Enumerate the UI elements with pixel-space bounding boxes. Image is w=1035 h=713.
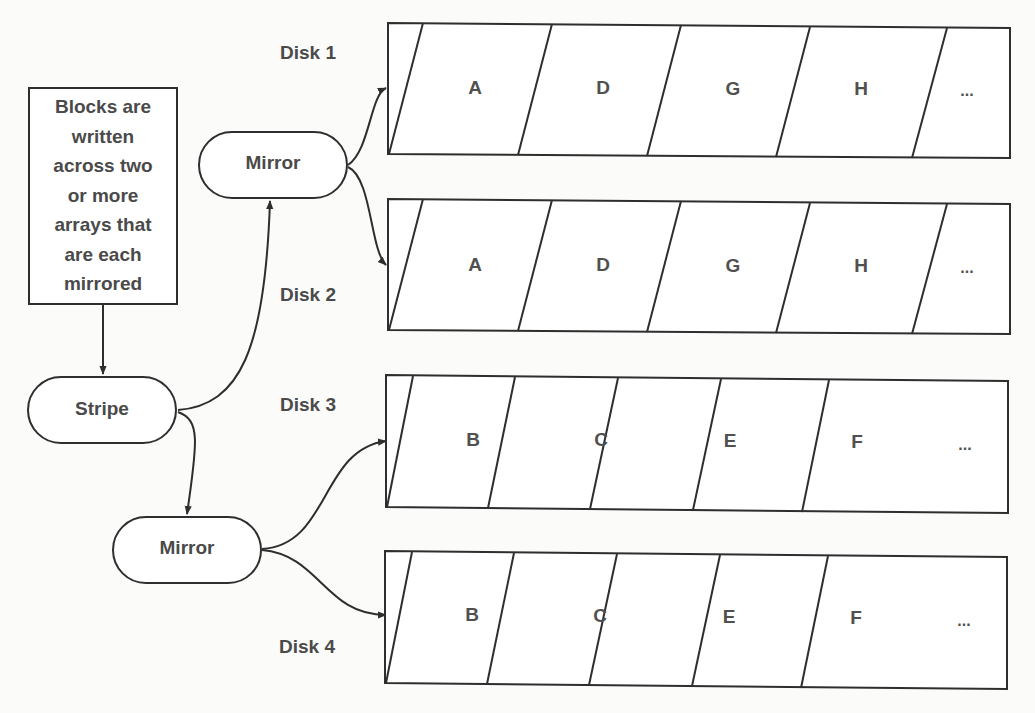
note-text: Blocks are written across two or more ar… <box>29 92 177 299</box>
note-line: Blocks are <box>29 92 177 122</box>
note-line: or more <box>29 181 177 211</box>
disk-1-block: G <box>703 78 763 100</box>
arrow-stripe-to-mirror-top <box>178 201 270 410</box>
disk-2-block: D <box>573 254 633 276</box>
note-line: written <box>29 122 177 152</box>
disk-1-block: A <box>445 77 505 99</box>
disk-3-block: F <box>827 431 887 453</box>
mirror-top-node-label: Mirror <box>199 152 347 174</box>
arrow-mirror-bottom-to-disk4 <box>262 550 386 615</box>
disk-2-block: G <box>703 255 763 277</box>
note-line: arrays that <box>29 210 177 240</box>
disk-2-label: Disk 2 <box>280 284 336 306</box>
note-line: are each <box>29 240 177 270</box>
disk-1-block: D <box>573 77 633 99</box>
disk-4-label: Disk 4 <box>279 636 335 658</box>
disk-4-block: C <box>570 605 630 627</box>
note-line: across two <box>29 151 177 181</box>
arrow-mirror-top-to-disk2 <box>348 167 386 265</box>
arrow-mirror-bottom-to-disk3 <box>262 441 386 549</box>
disk-3-block: E <box>700 430 760 452</box>
raid-10-diagram: Blocks are written across two or more ar… <box>0 0 1035 713</box>
disk-3-block: C <box>571 429 631 451</box>
stripe-node-label: Stripe <box>28 398 176 420</box>
disk-3-block-ellipsis: ... <box>935 436 995 454</box>
disk-4-block: F <box>826 607 886 629</box>
disk-1-block: H <box>831 78 891 100</box>
mirror-bottom-node-label: Mirror <box>113 537 261 559</box>
disk-1-label: Disk 1 <box>280 42 336 64</box>
arrow-mirror-top-to-disk1 <box>348 88 386 165</box>
disk-4-block: B <box>442 604 502 626</box>
disk-4-block-ellipsis: ... <box>934 612 994 630</box>
disk-3-block: B <box>443 429 503 451</box>
disk-2-block: A <box>445 254 505 276</box>
disk-2-block-ellipsis: ... <box>937 259 997 277</box>
note-line: mirrored <box>29 269 177 299</box>
disk-3-label: Disk 3 <box>280 394 336 416</box>
disk-4-block: E <box>699 606 759 628</box>
disk-1-block-ellipsis: ... <box>937 82 997 100</box>
arrow-stripe-to-mirror-bottom <box>178 412 195 514</box>
disk-2-block: H <box>831 255 891 277</box>
